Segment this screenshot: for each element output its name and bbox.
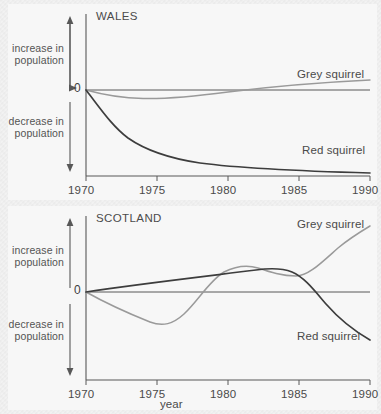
x-tick-label-1990-scotland: 1990: [352, 388, 378, 401]
panel-inner-wales: WALES increase in population decrease in…: [8, 4, 377, 200]
increase-decrease-arrow-wales: [67, 16, 74, 172]
plot-area-wales: [8, 4, 377, 200]
chart-panel-scotland: SCOTLAND increase in population decrease…: [8, 206, 377, 410]
zero-label-scotland: 0: [74, 284, 81, 297]
zero-label-wales: 0: [74, 82, 81, 95]
x-tick-label-1990-wales: 1990: [352, 184, 378, 197]
x-tick-label-1985-wales: 1985: [281, 184, 307, 197]
x-tick-label-1985-scotland: 1985: [281, 388, 307, 401]
x-ticks-wales: [86, 176, 370, 181]
series-label-red-squirrel-scotland: Red squirrel: [297, 330, 360, 343]
y-axis-increase-label-line2-wales: population: [0, 54, 64, 66]
series-line-grey-squirrel-scotland: [86, 226, 370, 324]
y-axis-decrease-label-line2-scotland: population: [0, 330, 64, 342]
series-line-grey-squirrel-wales: [86, 80, 370, 99]
chart-panel-wales: WALES increase in population decrease in…: [8, 4, 377, 200]
x-tick-label-1970-scotland: 1970: [68, 388, 94, 401]
figure-root: WALES increase in population decrease in…: [0, 0, 381, 414]
series-label-grey-squirrel-scotland: Grey squirrel: [297, 218, 364, 231]
x-axis-title-scotland: year: [160, 398, 183, 411]
y-axis-increase-label-line1-wales: increase in: [0, 42, 64, 54]
x-ticks-scotland: [86, 380, 370, 385]
x-tick-label-1975-wales: 1975: [139, 184, 165, 197]
y-axis-increase-label-line2-scotland: population: [0, 256, 64, 268]
panel-title-wales: WALES: [96, 10, 138, 23]
y-axis-decrease-label-line2-wales: population: [0, 127, 64, 139]
x-tick-label-1980-wales: 1980: [210, 184, 236, 197]
panel-inner-scotland: SCOTLAND increase in population decrease…: [8, 206, 377, 410]
y-axis-increase-label-line1-scotland: increase in: [0, 244, 64, 256]
series-line-red-squirrel-wales: [86, 90, 370, 173]
y-axis-decrease-label-line1-wales: decrease in: [0, 115, 64, 127]
y-axis-decrease-label-line1-scotland: decrease in: [0, 318, 64, 330]
series-label-red-squirrel-wales: Red squirrel: [302, 144, 365, 157]
series-label-grey-squirrel-wales: Grey squirrel: [297, 68, 364, 81]
plot-area-scotland: [8, 206, 377, 410]
increase-decrease-arrow-scotland: [67, 218, 74, 376]
panel-title-scotland: SCOTLAND: [96, 212, 162, 225]
x-tick-label-1970-wales: 1970: [68, 184, 94, 197]
x-tick-label-1980-scotland: 1980: [210, 388, 236, 401]
